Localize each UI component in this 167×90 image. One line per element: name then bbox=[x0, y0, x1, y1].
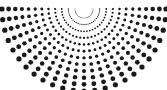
fan-dot bbox=[103, 58, 107, 62]
fan-dot bbox=[72, 19, 73, 20]
fan-dot bbox=[118, 8, 121, 11]
fan-dot bbox=[126, 41, 130, 45]
fan-dot bbox=[85, 17, 86, 18]
fan-dot bbox=[9, 26, 14, 31]
fan-dot bbox=[54, 55, 58, 59]
fan-dot bbox=[31, 28, 35, 32]
fan-dot bbox=[68, 10, 69, 11]
fan-dot bbox=[127, 66, 132, 71]
fan-dot bbox=[82, 82, 87, 87]
fan-dot bbox=[46, 29, 49, 32]
fan-dot bbox=[47, 8, 50, 11]
fan-dot bbox=[78, 43, 81, 46]
fan-dot bbox=[64, 19, 66, 21]
fan-dot bbox=[40, 77, 45, 82]
fan-dot bbox=[154, 26, 159, 31]
fan-dot bbox=[130, 55, 134, 59]
fan-dot bbox=[121, 37, 124, 40]
fan-dot bbox=[56, 19, 58, 21]
fan-dot bbox=[91, 81, 96, 86]
fan-dot bbox=[97, 33, 99, 35]
fan-dot bbox=[93, 48, 96, 51]
fan-dot bbox=[138, 7, 142, 11]
fan-dot bbox=[83, 24, 84, 25]
fan-dot bbox=[98, 12, 99, 13]
fan-dot bbox=[40, 32, 43, 35]
fan-dot bbox=[62, 14, 64, 16]
fan-dot bbox=[113, 61, 117, 65]
fan-dot bbox=[6, 38, 11, 43]
fan-dot bbox=[87, 17, 88, 18]
fan-dot bbox=[75, 62, 79, 66]
fan-dot bbox=[123, 18, 126, 21]
fan-dot bbox=[77, 49, 80, 52]
fan-dot bbox=[50, 21, 53, 24]
fan-dot bbox=[120, 56, 124, 60]
fan-dot bbox=[61, 8, 63, 10]
fan-dot bbox=[104, 44, 107, 47]
fan-dot bbox=[7, 16, 12, 21]
fan-dot bbox=[61, 36, 64, 39]
fan-dot bbox=[68, 61, 72, 65]
fan-dot bbox=[81, 24, 82, 25]
fan-dot bbox=[29, 22, 33, 26]
fan-dot bbox=[104, 36, 107, 39]
fan-dot bbox=[117, 17, 120, 20]
fan-dot bbox=[75, 10, 76, 11]
fan-dot bbox=[38, 51, 42, 55]
fan-dot bbox=[82, 17, 83, 18]
fan-dot bbox=[50, 82, 55, 87]
fan-dot bbox=[83, 30, 85, 32]
fan-dot bbox=[82, 69, 86, 73]
fan-dot bbox=[112, 8, 114, 10]
fan-dot bbox=[129, 20, 132, 23]
fan-dot bbox=[110, 55, 114, 59]
fan-dot bbox=[103, 28, 105, 30]
fan-dot bbox=[51, 61, 55, 65]
fan-dot bbox=[77, 30, 79, 32]
fan-dot bbox=[62, 79, 67, 84]
fan-dot bbox=[81, 17, 82, 18]
fan-dot bbox=[135, 60, 140, 65]
fan-dot bbox=[116, 21, 119, 24]
fan-dot bbox=[75, 36, 77, 38]
fan-dot bbox=[93, 9, 94, 10]
fan-dot bbox=[87, 37, 89, 39]
fan-dot bbox=[112, 12, 114, 14]
fan-dot bbox=[150, 16, 154, 20]
fan-dot bbox=[79, 23, 80, 24]
fan-dot bbox=[161, 28, 166, 33]
fan-dot bbox=[34, 35, 38, 39]
fan-dot bbox=[87, 43, 90, 46]
fan-dot bbox=[22, 23, 26, 27]
fan-dot bbox=[43, 46, 47, 50]
fan-dot bbox=[85, 24, 86, 25]
fan-dot bbox=[58, 50, 61, 53]
fan-dot bbox=[34, 14, 37, 17]
fan-dot bbox=[122, 77, 127, 82]
fan-dot bbox=[54, 12, 56, 14]
fan-dot bbox=[77, 23, 78, 24]
fan-dot bbox=[108, 22, 110, 24]
fan-dot bbox=[93, 21, 94, 22]
fan-dot bbox=[62, 28, 64, 30]
fan-dot bbox=[20, 7, 24, 11]
fan-dot bbox=[97, 16, 98, 17]
fan-dot bbox=[23, 64, 28, 69]
fan-dot bbox=[55, 29, 58, 32]
fan-dot bbox=[126, 51, 130, 55]
fan-dot bbox=[27, 7, 31, 11]
fan-dot bbox=[99, 10, 100, 11]
fan-dot bbox=[137, 14, 141, 18]
fan-dot bbox=[104, 17, 106, 19]
fan-dot bbox=[96, 41, 99, 44]
fan-dot bbox=[6, 7, 11, 12]
fan-dot bbox=[92, 11, 93, 12]
fan-dot bbox=[79, 37, 81, 39]
fan-dot bbox=[152, 47, 157, 52]
fan-dot bbox=[13, 7, 17, 11]
fan-dot bbox=[92, 10, 93, 11]
fan-dot bbox=[99, 8, 100, 9]
fan-dot bbox=[114, 26, 117, 29]
fan-dot bbox=[100, 73, 104, 77]
